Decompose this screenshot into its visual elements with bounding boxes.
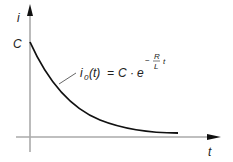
formula-exp-variable: t bbox=[163, 57, 166, 66]
formula-dot: · bbox=[130, 66, 134, 80]
x-axis-arrowhead-icon bbox=[207, 134, 221, 140]
formula-base: e bbox=[137, 66, 144, 80]
x-axis-label: t bbox=[208, 145, 212, 159]
y-axis-arrowhead-icon bbox=[27, 4, 33, 16]
formula-lhs-arg: (t) bbox=[89, 66, 100, 80]
formula-coef: C bbox=[118, 66, 127, 80]
formula: i 0 (t) = C · e − R L t bbox=[80, 52, 166, 82]
formula-lhs: i bbox=[80, 66, 83, 80]
formula-exp-numerator: R bbox=[154, 52, 160, 61]
y-intercept-label: C bbox=[13, 37, 22, 51]
formula-equals: = bbox=[107, 66, 114, 80]
decay-diagram: i t C i 0 (t) = C · e − R L t bbox=[0, 0, 233, 162]
formula-exp-denominator: L bbox=[154, 62, 158, 71]
formula-leader-line bbox=[59, 73, 76, 84]
y-axis-label: i bbox=[17, 11, 20, 25]
formula-exp-sign: − bbox=[145, 56, 150, 65]
